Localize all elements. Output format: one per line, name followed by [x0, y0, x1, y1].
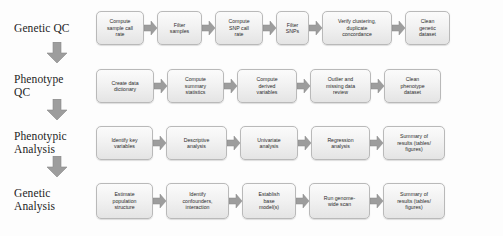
process-node[interactable]: Create data dictionary — [96, 69, 154, 103]
stage-label-phenotypic-analysis: Phenotypic Analysis — [14, 130, 94, 155]
right-arrow-icon — [153, 135, 166, 151]
stage-row-phenotypic-analysis: Identify key variables Descriptive analy… — [96, 123, 445, 163]
right-arrow-icon — [144, 20, 157, 36]
stage-row-genetic-qc: Compute sample call rate Filter samples … — [96, 8, 450, 48]
process-node[interactable]: Clean genetic dataset — [405, 11, 450, 45]
stage-label-genetic-qc: Genetic QC — [14, 22, 94, 35]
right-arrow-icon — [309, 20, 322, 36]
process-node[interactable]: Identify confounders, interaction — [166, 183, 229, 219]
process-node[interactable]: Regression analysis — [311, 126, 370, 160]
process-node[interactable]: Summary of results (tables/ figures) — [383, 183, 445, 219]
right-arrow-icon — [229, 193, 242, 209]
process-node[interactable]: Verify clustering, duplicate concordance — [322, 11, 392, 45]
right-arrow-icon — [297, 78, 310, 94]
stage-row-genetic-analysis: Estimate population structure Identify c… — [96, 181, 445, 221]
right-arrow-icon — [202, 20, 215, 36]
right-arrow-icon — [296, 193, 309, 209]
right-arrow-icon — [227, 135, 240, 151]
process-node[interactable]: Compute SNP call rate — [215, 11, 263, 45]
process-node[interactable]: Descriptive analysis — [166, 126, 227, 160]
stage-label-genetic-analysis: Genetic Analysis — [14, 187, 94, 212]
right-arrow-icon — [370, 193, 383, 209]
process-node[interactable]: Establish base model(s) — [242, 183, 296, 219]
right-arrow-icon — [153, 193, 166, 209]
right-arrow-icon — [298, 135, 311, 151]
stage-down-arrow-1 — [46, 42, 68, 64]
flowchart-canvas: Genetic QC Phenotype QC Phenotypic Analy… — [0, 0, 503, 236]
process-node[interactable]: Estimate population structure — [96, 183, 153, 219]
stage-row-phenotype-qc: Create data dictionary Compute summary s… — [96, 66, 441, 106]
right-arrow-icon — [370, 135, 383, 151]
process-node[interactable]: Run genome- wide scan — [309, 183, 370, 219]
right-arrow-icon — [224, 78, 237, 94]
process-node[interactable]: Compute sample call rate — [96, 11, 144, 45]
right-arrow-icon — [263, 20, 276, 36]
right-arrow-icon — [154, 78, 167, 94]
process-node[interactable]: Compute derived variables — [237, 69, 297, 103]
process-node[interactable]: Identify key variables — [96, 126, 153, 160]
right-arrow-icon — [392, 20, 405, 36]
process-node[interactable]: Compute summary statistics — [167, 69, 224, 103]
stage-label-phenotype-qc: Phenotype QC — [14, 73, 94, 98]
process-node[interactable]: Filter SNPs — [276, 11, 309, 45]
stage-down-arrow-2 — [46, 99, 68, 121]
right-arrow-icon — [371, 78, 384, 94]
process-node[interactable]: Univariate analysis — [240, 126, 298, 160]
process-node[interactable]: Outlier and missing data review — [310, 69, 371, 103]
process-node[interactable]: Filter samples — [157, 11, 202, 45]
process-node[interactable]: Clean phenotype dataset — [384, 69, 441, 103]
process-node[interactable]: Summary of results (tables/ figures) — [383, 126, 445, 160]
stage-down-arrow-3 — [46, 156, 68, 178]
